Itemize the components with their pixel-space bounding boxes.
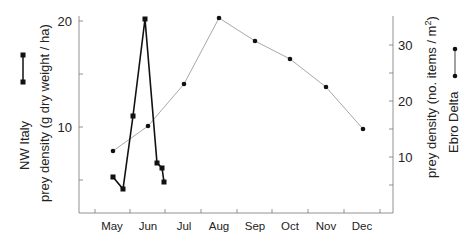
- month-jul: Jul: [177, 220, 192, 232]
- left-series-legend-label: NW Italy: [17, 120, 32, 170]
- right-series-legend-label: Ebro Delta: [446, 91, 461, 153]
- month-aug: Aug: [209, 220, 229, 232]
- month-dec: Dec: [352, 220, 373, 232]
- left-tick-20: 20: [58, 14, 72, 29]
- axes: [79, 16, 393, 213]
- right-tick-10: 10: [398, 150, 412, 165]
- left-tick-10: 10: [58, 120, 72, 135]
- right-tick-30: 30: [398, 38, 412, 53]
- month-nov: Nov: [316, 220, 337, 232]
- right-tick-20: 20: [398, 94, 412, 109]
- month-may: May: [101, 220, 123, 232]
- month-jun: Jun: [139, 220, 158, 232]
- series-ebro-delta: [111, 16, 366, 154]
- month-sep: Sep: [245, 220, 265, 232]
- series-nw-italy: [111, 17, 167, 192]
- month-oct: Oct: [281, 220, 300, 232]
- left-axis-title: prey density (g dry weight / ha): [37, 24, 52, 202]
- x-tick-labels: May Jun Jul Aug Sep Oct Nov Dec: [101, 220, 372, 232]
- right-legend-marker: [453, 47, 458, 79]
- right-axis-title: prey density (no. items / m2): [423, 16, 439, 178]
- left-legend-marker: [21, 53, 26, 85]
- chart: 20 10 30 20 10 May Jun Jul Aug Sep Oct N…: [0, 0, 475, 243]
